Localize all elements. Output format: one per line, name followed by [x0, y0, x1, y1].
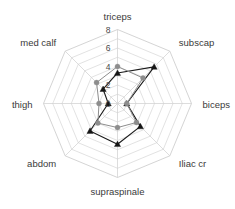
radar-chart-container: 02468 tricepssubscapbicepsIliac crsupras…	[0, 0, 235, 209]
axis-label-iliac-cr: Iliac cr	[179, 158, 206, 169]
axis-label-abdom: abdom	[27, 158, 56, 169]
axis-label-med-calf: med calf	[20, 37, 56, 48]
spoke-layer	[44, 30, 192, 178]
radial-tick-8: 8	[106, 25, 111, 35]
axis-label-biceps: biceps	[203, 99, 231, 110]
data-point-series-gray-thigh	[97, 101, 102, 106]
radial-tick-6: 6	[106, 43, 111, 53]
radial-tick-2: 2	[106, 80, 111, 90]
data-point-series-gray-triceps	[115, 64, 120, 69]
data-point-series-gray-biceps	[124, 101, 129, 106]
axis-label-thigh: thigh	[12, 99, 33, 110]
data-point-series-gray-med-calf	[94, 80, 99, 85]
data-point-series-gray-iliac-cr	[134, 120, 139, 125]
radial-tick-0: 0	[106, 99, 111, 109]
data-point-series-gray-supraspinale	[115, 125, 120, 130]
axis-label-triceps: triceps	[104, 11, 132, 22]
radar-chart-svg: 02468 tricepssubscapbicepsIliac crsupras…	[0, 0, 235, 209]
data-point-series-gray-abdom	[95, 121, 100, 126]
radial-tick-4: 4	[106, 62, 111, 72]
series-layer	[87, 64, 157, 147]
axis-label-subscap: subscap	[179, 37, 214, 48]
axis-label-supraspinale: supraspinale	[91, 186, 145, 197]
data-point-series-gray-subscap	[141, 75, 146, 80]
